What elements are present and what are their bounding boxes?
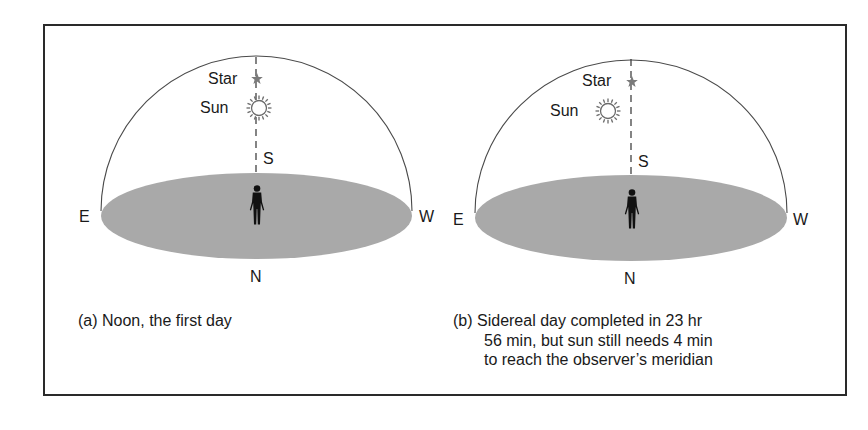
sun-label-a: Sun: [200, 99, 228, 117]
star-label-a: Star: [208, 70, 237, 88]
sun-icon-a: [247, 96, 272, 121]
panel-b-diagram: [475, 59, 787, 261]
west-label-a: W: [419, 208, 434, 226]
caption-a: (a) Noon, the first day: [78, 311, 232, 331]
south-label-a: S: [263, 150, 274, 168]
caption-b: (b) Sidereal day completed in 23 hr 56 m…: [453, 311, 713, 370]
star-icon-a: [251, 73, 263, 84]
north-label-a: N: [250, 268, 262, 286]
caption-b-line-2: 56 min, but sun still needs 4 min: [453, 331, 713, 351]
caption-b-line-1: (b) Sidereal day completed in 23 hr: [453, 311, 713, 331]
panel-a-diagram: [101, 56, 412, 259]
south-label-b: S: [638, 153, 649, 171]
north-label-b: N: [624, 270, 636, 288]
east-label-a: E: [79, 208, 90, 226]
sun-label-b: Sun: [550, 102, 578, 120]
caption-a-line-1: (a) Noon, the first day: [78, 311, 232, 331]
star-label-b: Star: [582, 72, 611, 90]
east-label-b: E: [453, 211, 464, 229]
west-label-b: W: [793, 211, 808, 229]
star-icon-b: [626, 76, 638, 87]
caption-b-line-3: to reach the observer’s meridian: [453, 350, 713, 370]
sun-icon-b: [596, 99, 621, 124]
